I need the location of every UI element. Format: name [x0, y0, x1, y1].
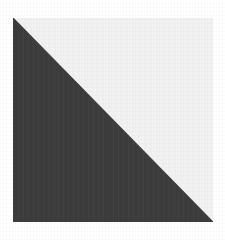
square-svg	[13, 18, 213, 222]
figure-canvas	[0, 0, 225, 240]
diagonal-split-square	[13, 18, 213, 222]
